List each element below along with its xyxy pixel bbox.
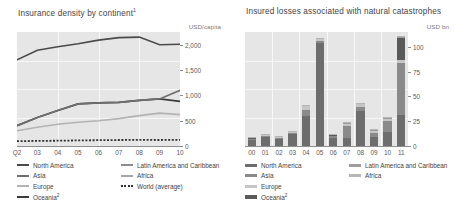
bar-segment-asia <box>383 121 391 132</box>
legend-swatch-icon <box>17 185 29 187</box>
left-axis-unit: USD/capita <box>189 23 221 30</box>
y-axis-tick-mark <box>180 70 183 71</box>
bar-segment-oceania2 <box>356 103 364 104</box>
bar-segment-asia <box>397 63 405 116</box>
bar-segment-asia <box>316 41 324 43</box>
legend-item: Latin America and Caribbean <box>121 160 219 171</box>
y-axis-tick-mark <box>180 121 183 122</box>
legend-swatch-icon <box>17 164 29 166</box>
y-axis-tick-label: 0 <box>185 143 189 150</box>
bar-segment-asia <box>275 138 283 140</box>
bar-segment-oceania2 <box>275 136 283 137</box>
bar-segment-latin-america-and-caribbean <box>302 105 310 106</box>
legend-item: North America <box>245 160 302 171</box>
bar-segment-oceania2 <box>329 135 337 136</box>
right-legend-column-2: Latin America and CaribbeanAfrica <box>349 160 447 181</box>
y-axis-tick-mark <box>408 72 411 73</box>
gridline-vertical <box>354 32 355 146</box>
legend-swatch-icon <box>121 164 133 166</box>
bar-segment-asia <box>261 136 269 138</box>
y-axis-tick-mark <box>408 121 411 122</box>
y-axis-tick-label: 75 <box>413 68 420 75</box>
bar-segment-oceania2 <box>343 123 351 124</box>
bar-segment-oceania2 <box>248 138 256 139</box>
x-axis-tick-label: 10 <box>384 149 391 156</box>
bar-segment-europe <box>329 135 337 136</box>
insured-losses-panel: Insured losses associated with natural c… <box>228 0 455 213</box>
x-axis-tick-label: 11 <box>398 149 405 156</box>
page-title-left: Insurance density by continent1 <box>18 7 136 18</box>
legend-item: Latin America and Caribbean <box>349 160 447 171</box>
bar-segment-europe <box>370 131 378 133</box>
legend-item: North America <box>17 160 74 171</box>
legend-item-label: Asia <box>33 172 45 179</box>
right-legend-column-1: North AmericaAsiaEuropeOceania2 <box>245 160 302 202</box>
legend-item-label: North America <box>261 162 302 169</box>
legend-swatch-icon <box>245 195 257 198</box>
bar-segment-latin-america-and-caribbean <box>383 118 391 119</box>
bar-segment-latin-america-and-caribbean <box>343 123 351 124</box>
bar-segment-oceania2 <box>288 131 296 132</box>
bar-segment-europe <box>397 60 405 63</box>
bar-segment-north-america <box>329 138 337 146</box>
y-axis-tick-mark <box>408 47 411 48</box>
right-x-axis-line <box>245 146 408 147</box>
y-axis-tick-label: 2,000 <box>185 41 201 48</box>
page-title-right: Insured losses associated with natural c… <box>246 7 441 16</box>
legend-item-label: Africa <box>365 172 381 179</box>
bar-segment-asia <box>302 110 310 116</box>
legend-label-superscript: 2 <box>285 193 288 198</box>
legend-swatch-icon <box>17 196 29 198</box>
legend-item: Europe <box>245 181 302 192</box>
bar-segment-europe <box>356 104 364 107</box>
x-axis-tick-label: 05 <box>316 149 323 156</box>
bar-segment-oceania2 <box>397 37 405 60</box>
bar-segment-latin-america-and-caribbean <box>316 38 324 39</box>
x-axis-tick-label: 07 <box>343 149 350 156</box>
legend-item: Asia <box>245 171 302 182</box>
bar-segment-asia <box>288 133 296 135</box>
left-legend-column-2: Latin America and CaribbeanAfricaWorld (… <box>121 160 219 192</box>
y-axis-tick-mark <box>180 45 183 46</box>
gridline-vertical <box>299 32 300 146</box>
y-axis-tick-mark <box>180 95 183 96</box>
gridline-vertical <box>327 32 328 146</box>
bar-segment-europe <box>343 124 351 126</box>
bar-segment-europe <box>248 138 256 139</box>
legend-item-label: Latin America and Caribbean <box>137 162 219 169</box>
x-axis-tick-label: 09 <box>370 149 377 156</box>
bar-segment-europe <box>316 39 324 41</box>
bar-segment-north-america <box>356 111 364 146</box>
x-axis-tick-label: 00 <box>248 149 255 156</box>
line-series-world-average <box>17 140 180 141</box>
legend-swatch-icon <box>245 185 257 188</box>
legend-item: Asia <box>17 171 74 182</box>
bar-segment-north-america <box>343 138 351 146</box>
bar-segment-europe <box>261 135 269 136</box>
bar-segment-north-america <box>261 137 269 146</box>
x-axis-tick-label: 03 <box>289 149 296 156</box>
legend-item: Europe <box>17 181 74 192</box>
legend-item-label: Oceania2 <box>261 193 287 201</box>
legend-item-label: Asia <box>261 172 273 179</box>
legend-item-label: Africa <box>137 172 153 179</box>
x-axis-tick-label: 08 <box>136 149 143 156</box>
bar-segment-europe <box>302 106 310 110</box>
bar-segment-asia <box>356 107 364 111</box>
legend-item-label: World (average) <box>137 183 183 190</box>
bar-segment-north-america <box>370 137 378 146</box>
x-axis-tick-label: 04 <box>54 149 61 156</box>
legend-item: Africa <box>121 171 219 182</box>
legend-swatch-icon <box>121 175 133 177</box>
insurance-density-panel: Insurance density by continent1 USD/capi… <box>0 0 227 213</box>
y-axis-tick-label: 100 <box>413 43 424 50</box>
legend-item-label: Oceania2 <box>33 193 59 201</box>
bar-segment-latin-america-and-caribbean <box>370 130 378 131</box>
x-axis-tick-label: 04 <box>303 149 310 156</box>
bar-segment-oceania2 <box>370 130 378 131</box>
line-series-group <box>17 32 180 146</box>
x-axis-tick-label: 06 <box>330 149 337 156</box>
y-axis-tick-mark <box>180 146 183 147</box>
y-axis-tick-label: 25 <box>413 118 420 125</box>
bar-segment-north-america <box>383 132 391 146</box>
